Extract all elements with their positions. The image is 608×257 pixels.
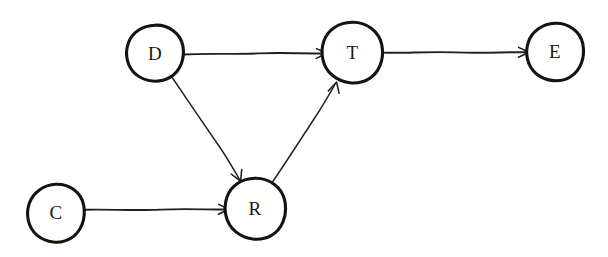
node-e-label: E xyxy=(549,41,561,62)
edge-r-to-t-line xyxy=(272,84,336,184)
diagram-canvas: D T E C R xyxy=(0,0,608,257)
node-t-label: T xyxy=(347,42,359,63)
node-r-label: R xyxy=(249,198,262,219)
node-d[interactable]: D xyxy=(127,25,184,81)
node-r[interactable]: R xyxy=(225,178,285,239)
node-d-label: D xyxy=(148,43,162,64)
node-t[interactable]: T xyxy=(322,22,383,83)
edge-c-to-r-line xyxy=(84,209,228,210)
edge-d-to-r-line xyxy=(172,77,240,180)
edge-t-to-e-line xyxy=(382,52,529,53)
edge-d-to-t[interactable] xyxy=(184,49,327,59)
node-c-label: C xyxy=(50,202,63,223)
edge-c-to-r[interactable] xyxy=(84,204,229,214)
edge-t-to-e[interactable] xyxy=(382,47,530,57)
edge-d-to-r[interactable] xyxy=(172,77,242,182)
graph-svg: D T E C R xyxy=(0,0,608,257)
edge-d-to-t-line xyxy=(184,53,326,54)
node-e[interactable]: E xyxy=(527,23,584,80)
edge-r-to-t[interactable] xyxy=(272,82,340,184)
node-c[interactable]: C xyxy=(28,184,85,242)
